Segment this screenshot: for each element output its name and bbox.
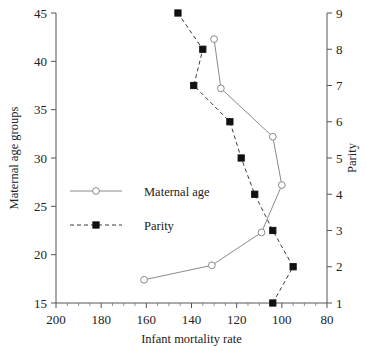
y2-tick-label: 9 <box>336 6 343 21</box>
series-layer <box>141 10 297 306</box>
y-tick-label: 25 <box>34 199 47 214</box>
data-point-parity <box>252 191 258 197</box>
y-tick-label: 15 <box>34 296 47 311</box>
y2-axis-title: Parity <box>345 142 359 173</box>
data-point-parity <box>200 46 206 52</box>
x-tick-label: 100 <box>272 312 292 327</box>
data-point-parity <box>175 10 181 16</box>
data-point-maternal-age <box>269 133 276 140</box>
data-point-parity <box>290 264 296 270</box>
y2-tick-label: 4 <box>336 187 343 202</box>
series-line-parity <box>178 13 293 303</box>
y-tick-label: 35 <box>34 102 47 117</box>
data-point-parity <box>227 119 233 125</box>
y-axis-title: Maternal age groups <box>7 106 21 209</box>
x-tick-label: 80 <box>321 312 334 327</box>
legend-layer: Maternal ageParity <box>70 185 210 233</box>
data-point-maternal-age <box>278 182 285 189</box>
y-tick-label: 20 <box>34 247 47 262</box>
y2-tick-label: 7 <box>336 78 343 93</box>
data-point-maternal-age <box>211 36 218 43</box>
y2-tick-label: 1 <box>336 296 343 311</box>
data-point-maternal-age <box>217 85 224 92</box>
legend-label-maternal-age: Maternal age <box>144 185 210 199</box>
data-point-maternal-age <box>141 276 148 283</box>
x-tick-label: 180 <box>91 312 111 327</box>
y2-tick-label: 2 <box>336 259 343 274</box>
x-tick-label: 120 <box>227 312 247 327</box>
legend-marker-maternal-age <box>93 188 100 195</box>
infant-mortality-chart: 2001801601401201008015202530354045123456… <box>0 0 367 351</box>
data-point-maternal-age <box>208 262 215 269</box>
x-tick-label: 140 <box>182 312 202 327</box>
y2-tick-label: 5 <box>336 151 343 166</box>
data-point-parity <box>270 227 276 233</box>
series-line-maternal-age <box>144 39 282 280</box>
y-tick-label: 40 <box>34 54 47 69</box>
legend-marker-parity <box>93 222 99 228</box>
data-point-parity <box>191 82 197 88</box>
x-tick-label: 200 <box>46 312 66 327</box>
x-tick-label: 160 <box>137 312 157 327</box>
y-tick-label: 30 <box>34 151 47 166</box>
data-point-parity <box>238 155 244 161</box>
chart-svg: 2001801601401201008015202530354045123456… <box>0 0 367 351</box>
data-point-maternal-age <box>258 229 265 236</box>
y2-tick-label: 3 <box>336 223 343 238</box>
y-tick-label: 45 <box>34 6 47 21</box>
axes-layer: 2001801601401201008015202530354045123456… <box>34 6 343 328</box>
data-point-parity <box>270 300 276 306</box>
y2-tick-label: 6 <box>336 114 343 129</box>
legend-label-parity: Parity <box>144 219 175 233</box>
x-axis-title: Infant mortality rate <box>141 332 242 346</box>
y2-tick-label: 8 <box>336 42 343 57</box>
axis-titles-layer: Infant mortality rate Maternal age group… <box>7 106 359 346</box>
